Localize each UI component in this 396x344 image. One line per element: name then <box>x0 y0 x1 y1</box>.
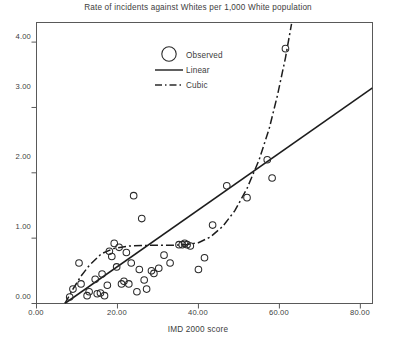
observed-scatter-points <box>66 45 288 300</box>
observed-point <box>223 183 230 190</box>
observed-point <box>195 266 202 273</box>
observed-point <box>269 175 276 182</box>
legend-markers <box>155 47 183 85</box>
cubic-fit-path <box>65 24 292 304</box>
plot-canvas <box>0 0 396 344</box>
linear-fit-path <box>65 88 373 304</box>
legend-marker-observed-circle-icon <box>162 47 176 61</box>
observed-point <box>128 260 135 267</box>
observed-point <box>134 288 141 295</box>
chart-figure: Rate of incidents against Whites per 1,0… <box>0 0 396 344</box>
observed-point <box>201 254 208 261</box>
observed-point <box>155 265 162 272</box>
observed-point <box>99 271 106 278</box>
observed-point <box>244 194 251 201</box>
linear-fit-line <box>65 88 373 304</box>
observed-point <box>123 249 130 256</box>
observed-point <box>84 292 91 299</box>
observed-point <box>161 252 168 259</box>
observed-point <box>104 282 111 289</box>
observed-point <box>141 277 148 284</box>
observed-point <box>209 222 216 229</box>
observed-point <box>143 286 150 293</box>
observed-point <box>167 260 174 267</box>
observed-point <box>282 45 289 52</box>
observed-point <box>138 215 145 222</box>
observed-point <box>86 288 93 295</box>
observed-point <box>78 281 85 288</box>
cubic-fit-line <box>65 24 292 304</box>
observed-point <box>136 266 143 273</box>
observed-point <box>76 260 83 267</box>
observed-point <box>130 192 137 199</box>
axis-ticks <box>32 42 361 308</box>
